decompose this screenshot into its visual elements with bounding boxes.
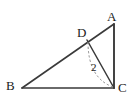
segment-BA [22,24,114,88]
vertex-label-b: B [6,79,15,92]
vertex-label-c: C [118,81,127,94]
vertex-label-a: A [107,10,116,23]
geometry-figure: A B C D 2 [0,0,136,104]
vertex-label-d: D [77,26,86,39]
arc-measure-label: 2 [91,62,97,73]
